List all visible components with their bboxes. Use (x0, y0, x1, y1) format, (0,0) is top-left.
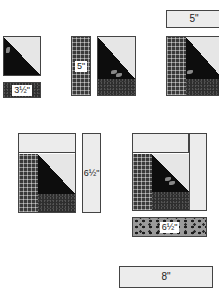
label-6-5-inch-right: 6½" (84, 169, 100, 178)
plaid-left (19, 154, 38, 212)
label-8-inch: 8" (161, 272, 170, 282)
hst-block-step1 (3, 36, 41, 76)
label-6-5-inch-bottom: 6½" (160, 222, 180, 233)
block-step4 (18, 133, 76, 213)
textured-bottom (38, 194, 75, 212)
leaf-motif (6, 47, 10, 53)
plaid-left (133, 154, 152, 210)
block-step3 (166, 36, 219, 96)
plaid-left (167, 37, 186, 95)
label-5-inch: 5" (75, 61, 87, 72)
block-step5 (132, 133, 207, 211)
block-step2 (97, 36, 136, 96)
top-band (133, 134, 189, 153)
label-3-5-inch: 3½" (12, 85, 32, 96)
strip-6-5-inch-right: 6½" (82, 133, 101, 213)
textured-bottom (98, 79, 135, 95)
hst-part (38, 154, 75, 194)
plaid-strip-5-inch: 5" (71, 36, 91, 96)
right-strip (189, 134, 206, 210)
strip-8-inch: 8" (119, 266, 213, 288)
dotted-strip-6-5-inch: 6½" (132, 217, 207, 237)
top-band (19, 134, 75, 153)
textured-bottom (152, 192, 189, 210)
textured-bottom (186, 79, 219, 95)
label-5-inch-top: 5" (189, 14, 198, 24)
hst-part (152, 154, 189, 192)
strip-3-5-inch: 3½" (3, 82, 41, 98)
strip-5-inch-top: 5" (166, 10, 219, 28)
